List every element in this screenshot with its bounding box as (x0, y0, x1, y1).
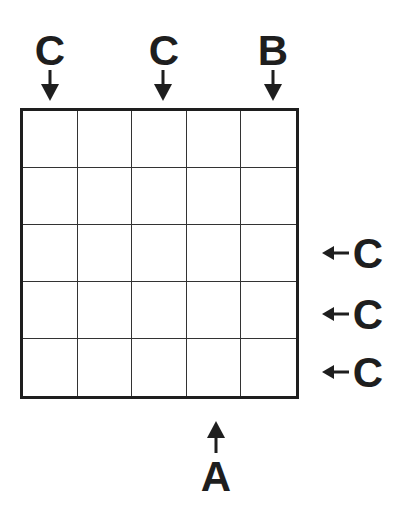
grid-cell-r1c2[interactable] (78, 111, 133, 168)
grid-cell-r3c1[interactable] (23, 225, 78, 282)
top-clue-col1-label: C (34, 30, 66, 72)
right-clue-row4-label: C (350, 294, 386, 336)
left-arrow-icon (322, 245, 350, 261)
grid-cell-r1c5[interactable] (241, 111, 296, 168)
grid-cell-r5c3[interactable] (132, 339, 187, 396)
right-clue-row3-label: C (350, 233, 386, 275)
top-clue-col5-label: B (257, 30, 289, 72)
grid-cell-r5c5[interactable] (241, 339, 296, 396)
grid-cell-r4c4[interactable] (187, 282, 242, 339)
grid-cell-r1c3[interactable] (132, 111, 187, 168)
grid-cell-r4c2[interactable] (78, 282, 133, 339)
left-arrow-icon (322, 306, 350, 322)
bottom-clue-col4-label: A (198, 456, 234, 498)
grid-cell-r1c4[interactable] (187, 111, 242, 168)
grid-cell-r4c5[interactable] (241, 282, 296, 339)
grid-cell-r1c1[interactable] (23, 111, 78, 168)
left-arrow-icon (322, 364, 350, 380)
top-clue-col3-label: C (148, 30, 180, 72)
grid-cell-r5c1[interactable] (23, 339, 78, 396)
grid-cell-r3c3[interactable] (132, 225, 187, 282)
grid-cell-r4c1[interactable] (23, 282, 78, 339)
grid-cell-r5c4[interactable] (187, 339, 242, 396)
grid-cell-r2c3[interactable] (132, 168, 187, 225)
grid-cell-r3c5[interactable] (241, 225, 296, 282)
down-arrow-icon (41, 70, 59, 102)
grid-cell-r5c2[interactable] (78, 339, 133, 396)
down-arrow-icon (154, 70, 172, 102)
grid-cell-r3c2[interactable] (78, 225, 133, 282)
puzzle-grid (20, 108, 299, 399)
grid-cell-r2c4[interactable] (187, 168, 242, 225)
grid-cell-r4c3[interactable] (132, 282, 187, 339)
grid-cell-r3c4[interactable] (187, 225, 242, 282)
down-arrow-icon (264, 70, 282, 102)
right-clue-row5-label: C (350, 352, 386, 394)
grid-cell-r2c2[interactable] (78, 168, 133, 225)
grid-cell-r2c1[interactable] (23, 168, 78, 225)
up-arrow-icon (207, 421, 225, 453)
grid-cell-r2c5[interactable] (241, 168, 296, 225)
